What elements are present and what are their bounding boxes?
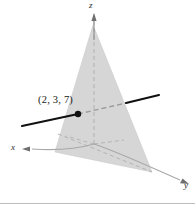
marked-point-label: (2, 3, 7): [38, 95, 73, 106]
y-axis-label: y: [184, 181, 188, 190]
z-axis-label: z: [89, 1, 93, 10]
normal-line-right-segment: [126, 95, 159, 103]
x-axis-arrowhead-icon: [22, 146, 30, 151]
marked-point-dot: [75, 111, 81, 117]
diagram-svg: [0, 0, 195, 204]
z-axis-arrowhead-icon: [91, 13, 96, 21]
x-axis-label: x: [11, 143, 15, 152]
diagram-canvas: (2, 3, 7) x y z: [0, 0, 195, 204]
